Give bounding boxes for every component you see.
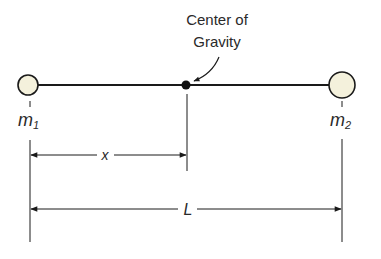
center-of-gravity-dot — [182, 81, 191, 90]
annotation-arrow-icon — [194, 57, 219, 81]
annotation-line-2: Gravity — [193, 33, 241, 50]
x-dimension-label: x — [101, 147, 110, 163]
L-dimension-label: L — [184, 201, 193, 218]
mass-1-label: m1 — [18, 110, 39, 131]
center-of-gravity-diagram: Center of Gravity m1 m2 x L — [0, 0, 381, 259]
mass-2-label: m2 — [330, 110, 351, 131]
mass-1 — [18, 75, 38, 95]
mass-2 — [329, 72, 355, 98]
annotation-line-1: Center of — [186, 11, 249, 28]
